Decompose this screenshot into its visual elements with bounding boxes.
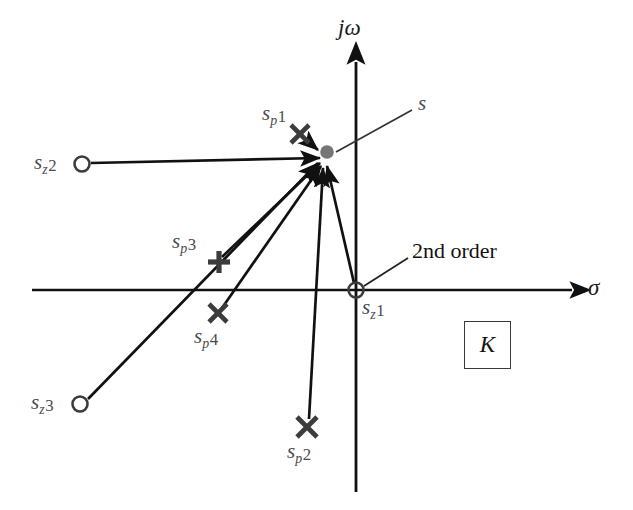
- vector-from-sz1: [327, 166, 354, 283]
- test-point-group: [320, 110, 412, 159]
- vector-from-sp4: [222, 166, 321, 308]
- pole-marker-sp2: [297, 417, 317, 437]
- test-point-dot: [320, 145, 334, 159]
- zero-marker-sz2: [75, 157, 90, 172]
- pole-label-sp4: sp4: [194, 326, 218, 350]
- vector-from-sp2: [309, 168, 323, 419]
- pole-markers: [208, 125, 317, 437]
- axis-group: [32, 62, 572, 492]
- gain-box: K: [464, 321, 511, 369]
- vector-from-sp3: [222, 163, 320, 257]
- pole-label-sp2: sp2: [287, 441, 311, 465]
- second-order-leader-line: [364, 258, 408, 286]
- zero-markers: [73, 157, 364, 412]
- real-axis-label: σ: [588, 276, 599, 299]
- vector-from-sz2: [91, 158, 320, 163]
- zero-label-sz2: sz2: [34, 152, 57, 176]
- zero-label-sz3: sz3: [31, 392, 54, 416]
- pole-marker-sp4: [209, 304, 227, 322]
- gain-box-label: K: [480, 332, 495, 358]
- diagram-svg: [0, 0, 633, 510]
- test-point-label: s: [418, 93, 426, 114]
- figure-canvas: jω σ s sz1 sz2 sz3 sp1 sp2 sp3 sp4 2nd o…: [0, 0, 633, 510]
- pole-label-sp1: sp1: [262, 103, 286, 127]
- zero-marker-sz3: [73, 397, 88, 412]
- zero-label-sz1: sz1: [362, 297, 385, 321]
- pole-marker-sp1: [291, 125, 309, 143]
- test-point-leader-line: [336, 110, 412, 152]
- vector-group: [88, 137, 354, 419]
- second-order-annotation: 2nd order: [412, 240, 497, 262]
- pole-label-sp3: sp3: [172, 231, 196, 255]
- imaginary-axis-label: jω: [338, 16, 361, 39]
